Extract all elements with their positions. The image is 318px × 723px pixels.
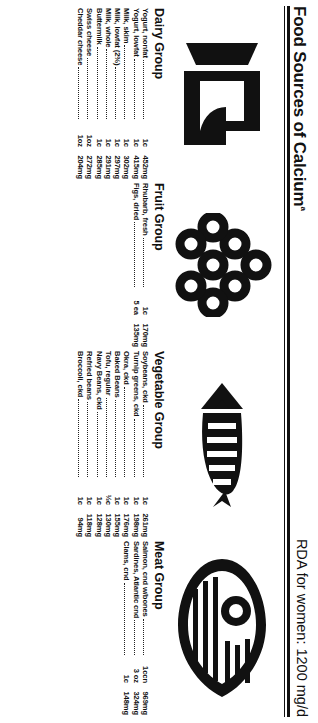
food-calcium-value: 272mg (85, 147, 94, 179)
food-amount: 1c (141, 289, 150, 315)
grapes-icon (166, 181, 278, 349)
food-name: Milk, lowfat (2%) (113, 8, 122, 65)
leader-dots (143, 405, 145, 477)
food-row: Soybeans, ckd 1c 261mg (141, 351, 150, 537)
leader-dots (106, 49, 108, 119)
food-name: Okra, ckd (122, 351, 131, 385)
leader-dots (134, 222, 136, 287)
food-row: Figs, dried 5 ea 135mg (131, 183, 140, 347)
food-amount: ½c (104, 479, 113, 505)
food-calcium-value: 452mg (141, 147, 150, 179)
food-row: Yogurt, lowfat 1c 415mg (131, 8, 140, 179)
food-calcium-value: 302mg (122, 147, 131, 179)
food-amount: 1c (131, 121, 140, 147)
food-name: Figs, dried (131, 183, 140, 220)
food-amount: 1c (122, 121, 131, 147)
food-row: Cheddar cheese 1oz 204mg (76, 8, 85, 179)
food-row: Swiss cheese 1oz 272mg (85, 8, 94, 179)
food-amount: 1ccn (141, 657, 150, 683)
food-list-vegetable: Soybeans, ckd 1c 261mg Turnip greens, ck… (76, 349, 150, 539)
food-name: Sardines, Atlantic cnd (131, 541, 140, 618)
food-amount: 1c (131, 479, 140, 505)
leader-dots (97, 47, 99, 119)
food-row: Milk, whole 1c 291mg (104, 8, 113, 179)
food-row: Rhubarb, fresh 1c 170mg (141, 183, 150, 347)
food-name: Yogurt, nonfat (141, 8, 150, 58)
food-name: Clams, cnd (122, 541, 131, 581)
food-calcium-value: 94mg (76, 505, 85, 537)
food-amount: 1c (94, 479, 103, 505)
food-row: Broccoli, ckd 1c 94mg (76, 351, 85, 537)
food-amount: 1c (104, 121, 113, 147)
leader-dots (134, 620, 136, 655)
food-group-fruit: Fruit Group Rhubarb, fresh 1c 170mg Figs… (4, 181, 278, 349)
food-calcium-value: 148mg (122, 683, 131, 715)
food-name: Cheddar cheese (76, 8, 85, 65)
food-name: Refried beans (85, 351, 94, 400)
page-title: Food Sources of Calciuma (289, 6, 313, 211)
leader-dots (124, 45, 126, 119)
food-calcium-value: 170mg (141, 315, 150, 347)
food-calcium-value: 155mg (113, 505, 122, 537)
food-row: Salmon, cnd w/bones 1ccn 969mg (141, 541, 150, 715)
food-list-meat: Salmon, cnd w/bones 1ccn 969mg Sardines,… (122, 539, 150, 717)
leader-dots (124, 387, 126, 477)
food-name: Navy Beans, ckd (94, 351, 103, 410)
food-name: Buttermilk (94, 8, 103, 45)
food-name: Rhubarb, fresh (141, 183, 150, 236)
food-amount: 1c (113, 479, 122, 505)
food-calcium-value: 135mg (131, 315, 140, 347)
food-amount: 1c (85, 479, 94, 505)
food-row: Refried beans 1c 118mg (85, 351, 94, 537)
food-name: Soybeans, ckd (141, 351, 150, 403)
food-calcium-value: 130mg (104, 505, 113, 537)
rotated-poster-canvas: Food Sources of Calciuma RDA for women: … (0, 0, 318, 723)
food-row: Baked Beans 1c 155mg (113, 351, 122, 537)
food-name: Yogurt, lowfat (131, 8, 140, 57)
food-calcium-value: 204mg (76, 147, 85, 179)
food-amount: 1c (76, 479, 85, 505)
leader-dots (97, 412, 99, 477)
header-rule-thin (284, 6, 285, 717)
food-group-columns: Dairy Group Yogurt, nonfat 1c 452mg Yogu… (4, 6, 278, 717)
food-row: Yogurt, nonfat 1c 452mg (141, 8, 150, 179)
food-calcium-value: 297mg (113, 147, 122, 179)
group-title-meat: Meat Group (152, 539, 166, 717)
food-name: Baked Beans (113, 351, 122, 398)
group-title-vegetable: Vegetable Group (152, 349, 166, 539)
group-title-dairy: Dairy Group (152, 6, 166, 181)
food-calcium-value: 324mg (131, 683, 140, 715)
food-calcium-value: 291mg (104, 147, 113, 179)
leader-dots (87, 402, 89, 477)
food-row: Clams, cnd 1c 148mg (122, 541, 131, 715)
food-group-vegetable: Vegetable Group Soybeans, ckd 1c 261mg T… (4, 349, 278, 539)
fish-icon (166, 539, 278, 717)
food-list-dairy: Yogurt, nonfat 1c 452mg Yogurt, lowfat 1… (76, 6, 150, 181)
leader-dots (87, 58, 89, 119)
food-group-dairy: Dairy Group Yogurt, nonfat 1c 452mg Yogu… (4, 6, 278, 181)
leader-dots (78, 67, 80, 119)
food-row: Navy Beans, ckd 1c 128mg (94, 351, 103, 537)
food-group-meat: Meat Group Salmon, cnd w/bones 1ccn 969m… (4, 539, 278, 717)
food-name: Milk, whole (104, 8, 113, 47)
leader-dots (143, 619, 145, 655)
food-amount: 1c (141, 121, 150, 147)
food-amount: 1c (141, 479, 150, 505)
food-calcium-value: 969mg (141, 683, 150, 715)
food-name: Milk, skim (122, 8, 131, 43)
food-row: Buttermilk 1c 285mg (94, 8, 103, 179)
milk-carton-icon (166, 6, 278, 181)
food-row: Milk, lowfat (2%) 1c 297mg (113, 8, 122, 179)
food-name: Tofu, regular (104, 351, 113, 396)
calcium-food-sources-poster: Food Sources of Calciuma RDA for women: … (0, 0, 318, 723)
page-title-text: Food Sources of Calcium (290, 6, 309, 206)
food-amount: 1c (122, 657, 131, 683)
food-amount: 3 oz (131, 657, 140, 683)
rda-note: RDA for women: 1200 mg/d (292, 539, 313, 717)
food-row: Milk, skim 1c 302mg (122, 8, 131, 179)
food-calcium-value: 415mg (131, 147, 140, 179)
food-name: Broccoli, ckd (76, 351, 85, 397)
food-list-fruit: Rhubarb, fresh 1c 170mg Figs, dried 5 ea… (131, 181, 150, 349)
food-amount: 1c (94, 121, 103, 147)
leader-dots (115, 400, 117, 477)
